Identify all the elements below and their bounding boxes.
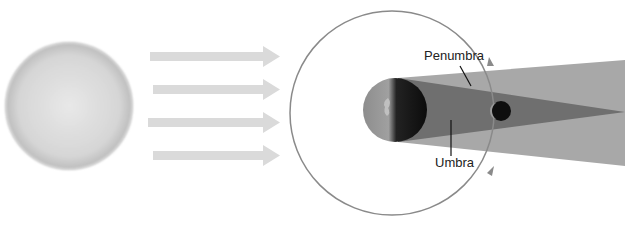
arrow-icon <box>153 145 280 166</box>
sun-icon <box>6 43 132 169</box>
arrow-icon <box>148 112 280 133</box>
umbra-label: Umbra <box>435 155 474 170</box>
lunar-eclipse-diagram: Penumbra Umbra <box>0 0 631 231</box>
orbit-arrow-icon <box>487 57 494 66</box>
sunlight-arrows <box>148 46 280 166</box>
arrow-icon <box>150 46 280 67</box>
moon-icon <box>490 101 511 121</box>
orbit-arrow-icon <box>487 166 494 176</box>
earth-icon <box>363 78 427 142</box>
penumbra-label: Penumbra <box>424 48 484 63</box>
arrow-icon <box>153 79 280 100</box>
